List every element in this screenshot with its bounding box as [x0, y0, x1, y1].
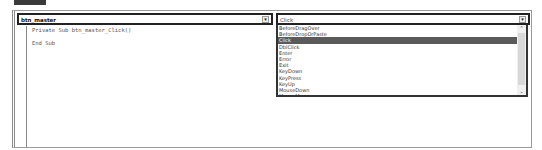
vertical-scrollbar[interactable]: ⌃ ⌄	[517, 25, 526, 95]
margin-indicator-bar	[26, 26, 27, 147]
procedure-combobox[interactable]: Click ▾	[276, 13, 530, 25]
procedure-dropdown-list[interactable]: BeforeDragOver BeforeDropOrPaste Click D…	[276, 25, 528, 97]
chevron-down-icon[interactable]: ▾	[262, 16, 269, 23]
code-line[interactable]: Private Sub btn_master_Click()	[32, 27, 131, 33]
object-combobox-value: btn_master	[21, 15, 56, 25]
scroll-down-icon[interactable]: ⌄	[517, 88, 526, 95]
code-line[interactable]: End Sub	[32, 40, 55, 46]
chevron-down-icon[interactable]: ▾	[519, 16, 526, 23]
scroll-thumb[interactable]	[518, 33, 525, 85]
title-bar-fragment	[14, 0, 46, 5]
scroll-up-icon[interactable]: ⌃	[517, 25, 526, 32]
list-item[interactable]: MouseMove	[278, 93, 526, 97]
procedure-combobox-value: Click	[280, 15, 293, 25]
object-combobox[interactable]: btn_master ▾	[17, 13, 273, 25]
